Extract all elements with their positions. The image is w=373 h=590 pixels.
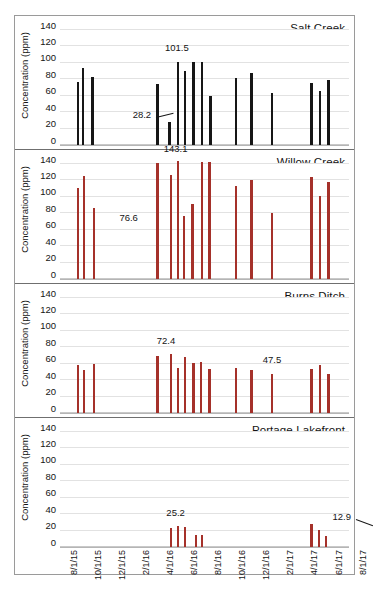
y-axis-tick-label: 140 xyxy=(40,423,56,433)
data-label: 76.6 xyxy=(119,212,138,223)
data-label: 25.2 xyxy=(166,507,185,518)
gridline xyxy=(60,62,349,63)
y-axis-tick-label: 140 xyxy=(40,289,56,299)
bar xyxy=(93,364,95,413)
gridline xyxy=(60,262,349,263)
bar xyxy=(201,162,203,279)
bar xyxy=(156,84,158,145)
data-label: 47.5 xyxy=(263,354,282,365)
gridline xyxy=(60,513,349,514)
y-axis-tick-label: 80 xyxy=(45,204,56,214)
bar xyxy=(250,180,252,279)
bar xyxy=(208,162,210,279)
y-axis-tick-label: 120 xyxy=(40,439,56,449)
bar xyxy=(184,527,186,547)
bar xyxy=(235,186,237,279)
bar xyxy=(200,362,202,413)
bar xyxy=(156,356,158,414)
bar xyxy=(271,93,273,145)
y-axis-title: Concentration (ppm) xyxy=(17,284,31,402)
bar xyxy=(319,196,321,279)
bar xyxy=(93,208,95,279)
bar xyxy=(184,357,186,413)
y-axis-tick-label: 60 xyxy=(45,354,56,364)
y-axis-tick-label: 80 xyxy=(45,338,56,348)
gridline xyxy=(60,179,349,180)
gridline xyxy=(60,163,349,164)
y-axis-tick-label: 60 xyxy=(45,220,56,230)
x-axis-tick-label: 8/1/17 xyxy=(358,550,367,575)
bar xyxy=(310,177,312,279)
x-axis-tick-label: 4/1/17 xyxy=(310,550,319,575)
bar xyxy=(209,96,211,145)
bar xyxy=(77,82,79,145)
x-axis-tick-label: 10/1/16 xyxy=(238,550,247,580)
bar xyxy=(201,62,203,145)
leader-line xyxy=(356,519,373,526)
bar xyxy=(319,365,321,413)
y-axis-title-text: Concentration (ppm) xyxy=(19,32,30,119)
panel-portage-lakefront: Concentration (ppm)Portage Lakefront0204… xyxy=(15,418,354,576)
x-axis-line xyxy=(60,547,349,548)
bar xyxy=(310,369,312,413)
plot-area: 020406080100120140143.176.6 xyxy=(60,164,349,279)
gridline xyxy=(60,111,349,112)
data-label: 28.2 xyxy=(133,109,152,120)
x-axis-line xyxy=(60,145,349,146)
y-axis-tick-label: 140 xyxy=(40,21,56,31)
gridline xyxy=(60,297,349,298)
bar xyxy=(310,524,312,547)
y-axis-tick-label: 80 xyxy=(45,70,56,80)
bar xyxy=(82,68,84,145)
x-axis-tick-label: 10/1/15 xyxy=(93,550,102,580)
data-label: 72.4 xyxy=(157,335,176,346)
bar xyxy=(177,62,179,145)
data-label: 12.9 xyxy=(333,511,352,522)
y-axis-tick-label: 100 xyxy=(40,322,56,332)
gridline xyxy=(60,196,349,197)
gridline xyxy=(60,497,349,498)
y-axis-tick-label: 100 xyxy=(40,456,56,466)
bar xyxy=(235,368,237,413)
gridline xyxy=(60,330,349,331)
bar xyxy=(271,213,273,279)
y-axis-tick-label: 0 xyxy=(51,270,56,280)
bar xyxy=(83,176,85,279)
x-axis-tick-label: 12/1/16 xyxy=(262,550,271,580)
bar xyxy=(191,204,193,279)
y-axis-tick-label: 0 xyxy=(51,404,56,414)
bar xyxy=(250,370,252,413)
y-axis-tick-label: 60 xyxy=(45,86,56,96)
gridline xyxy=(60,78,349,79)
y-axis-tick-label: 20 xyxy=(45,119,56,129)
gridline xyxy=(60,363,349,364)
gridline xyxy=(60,29,349,30)
bar xyxy=(192,363,194,413)
bar xyxy=(77,188,79,279)
bar xyxy=(201,535,203,547)
x-axis-labels: 8/1/1510/1/1512/1/152/1/164/1/166/1/168/… xyxy=(60,550,349,584)
bar xyxy=(156,163,158,279)
x-axis-tick-label: 8/1/16 xyxy=(214,550,223,575)
x-axis-tick-label: 6/1/16 xyxy=(190,550,199,575)
bar xyxy=(177,161,179,279)
y-axis-tick-label: 120 xyxy=(40,171,56,181)
bar xyxy=(170,175,172,279)
x-axis-tick-label: 4/1/16 xyxy=(165,550,174,575)
bar xyxy=(184,71,186,145)
x-axis-tick-label: 12/1/15 xyxy=(117,550,126,580)
y-axis-title: Concentration (ppm) xyxy=(17,150,31,268)
bar xyxy=(170,354,172,413)
gridline xyxy=(60,212,349,213)
bar xyxy=(325,536,327,547)
y-axis-tick-label: 120 xyxy=(40,37,56,47)
y-axis-tick-label: 40 xyxy=(45,505,56,515)
gridline xyxy=(60,464,349,465)
gridline xyxy=(60,128,349,129)
x-axis-line xyxy=(60,279,349,280)
y-axis-tick-label: 80 xyxy=(45,472,56,482)
data-label: 101.5 xyxy=(165,42,189,53)
y-axis-tick-label: 40 xyxy=(45,237,56,247)
y-axis-tick-label: 20 xyxy=(45,253,56,263)
x-axis-tick-label: 6/1/17 xyxy=(334,550,343,575)
